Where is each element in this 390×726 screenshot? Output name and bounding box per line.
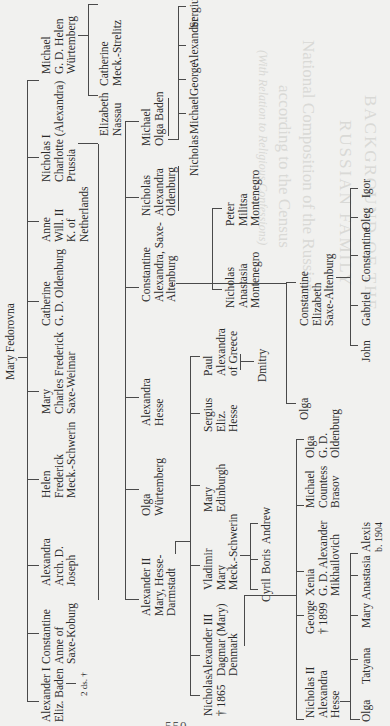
connector [27,80,39,81]
node-line: Nassau [111,93,124,136]
connector [350,188,351,346]
node-olga-gd: Olga G. D. Oldenburg [304,409,342,458]
connector [350,553,358,554]
connector [286,282,287,404]
connector [125,287,139,288]
connector [176,283,286,284]
node-line: Nicholas II [304,667,317,718]
node-xenia: Xenia G. D. Alexander Mikhailovich [304,521,342,596]
node-line: Constantine [298,253,311,326]
connector [27,633,39,634]
node-line: Charlotte (Alexandra) [53,81,66,182]
node-line: G. D. [317,409,330,458]
node-nicholas-1865: Nicholas † 1865 [202,675,227,716]
node-line: Nicholas I [40,81,53,182]
node-line: Olga [140,458,153,516]
connector [250,523,258,524]
node-alexandra-h: Alexandra Hesse [140,378,165,426]
connector [286,282,296,283]
node-line: Olga [304,409,317,458]
node-alexander-iii: Alexander III Dagmar (Mary) Denmark [202,604,240,676]
connector [350,554,351,720]
connector [27,479,39,480]
node-line: Charles Frederick [53,332,66,414]
connector [172,282,173,286]
node-boris: Boris [260,549,273,574]
node-line: Brasov [329,466,342,508]
connector [88,95,98,96]
node-catherine: Catherine G. D. Oldenburg [40,249,65,326]
node-line: Meck.-Schwerin [65,422,78,498]
node-gabriel: Gabriel [360,292,373,326]
connector [27,221,39,222]
connector [240,555,250,556]
connector [178,166,179,211]
connector [296,439,304,440]
node-line: Alexander II [140,555,153,616]
connector [212,289,222,290]
node-line: Michael [304,466,317,508]
connector [296,505,304,506]
connector [240,354,241,370]
node-line: Michael [140,91,153,146]
node-nicholas-o: Nicholas Alexandra Oldenburg [140,167,178,216]
connector [178,6,186,7]
node-mary-e: Mary Edinburgh [202,464,227,512]
node-line: Countess [317,466,330,508]
node-line: Helen [40,422,53,498]
connector [88,4,98,5]
node-line: b. 1904 [373,522,386,552]
connector [66,683,76,684]
node-line: Elizabeth [311,253,324,326]
node-root: Mary Fedorovna [4,303,17,380]
connector [190,485,200,486]
node-alexis: Alexis b. 1904 [360,522,385,552]
node-line: Anne of [53,603,66,664]
node-line: Meck.-Strelitz [111,20,124,86]
node-line: Constantine [140,222,153,302]
node-alexander-i-note: 2 ds. † [78,672,91,696]
node-oleg: Oleg [360,208,373,230]
node-line: † 1899 [317,600,330,634]
connector [27,157,39,158]
node-line: Mary [40,332,53,414]
node-line: G. D. Alexander [317,521,330,596]
node-line: Eliz. Baden [53,667,66,722]
node-igor: Igor [360,179,373,198]
node-anne: Anne Will. II K. of Netherlands [40,186,90,242]
node-line: Will. II [53,186,66,242]
node-tatyana: Tatyana [360,648,373,684]
node-constantine-sa: Constantine Alexandra, Saxe- Altenburg [140,222,178,302]
node-line: Saxe-Altenburg [323,253,336,326]
connector [125,489,139,490]
node-line: Saxe-Koburg [65,603,78,664]
node-dmitry: Dmitry [256,349,269,382]
connector [178,113,186,114]
node-line: Mary, Hesse- [153,555,166,616]
connector [168,98,169,136]
node-line: Mikhailovich [329,521,342,596]
connector [286,403,296,404]
node-line: Alexandra [215,328,228,376]
page-number: 550 [165,718,188,726]
connector [190,356,200,357]
node-line: Nicholas [140,167,153,216]
connector [125,599,139,600]
connector [190,655,200,656]
connector [125,121,139,122]
node-line: Oldenburg [165,167,178,216]
node-line: Joseph [65,538,78,586]
node-line: Frederick [53,422,66,498]
node-line: Montenegro [249,170,262,226]
genealogy-page: Mary Fedorovna Alexander I Eliz. Baden 2… [0,0,390,726]
connector [175,541,191,542]
node-helen: Helen Frederick Meck.-Schwerin [40,422,78,498]
connector [296,719,304,720]
node-line: Anne [40,186,53,242]
connector [78,143,98,144]
node-nicholas-mb: Nicholas [188,135,201,176]
connector [27,565,39,566]
connector [296,440,297,720]
connector [244,596,245,646]
node-michael: Michael G. D. Helen Würtemberg [40,16,78,74]
